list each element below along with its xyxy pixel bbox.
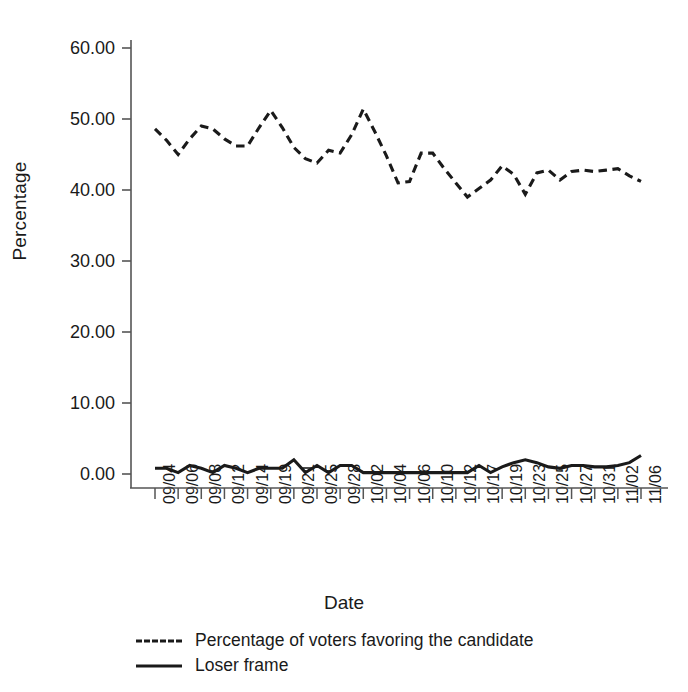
plot-area <box>0 0 688 692</box>
legend-item-0: Percentage of voters favoring the candid… <box>136 628 534 653</box>
legend-label-1: Loser frame <box>195 656 288 675</box>
legend-label-0: Percentage of voters favoring the candid… <box>195 631 534 650</box>
series-line-0 <box>155 109 641 197</box>
series-line-1 <box>155 456 641 473</box>
axis-lines <box>130 40 668 488</box>
x-axis-ticks <box>155 488 641 499</box>
legend-swatch-dashed-line-icon <box>136 634 182 648</box>
series-lines <box>155 109 641 473</box>
chart-figure: Percentage Date 0.0010.0020.0030.0040.00… <box>0 0 688 692</box>
chart-legend: Percentage of voters favoring the candid… <box>136 628 534 678</box>
legend-item-1: Loser frame <box>136 653 534 678</box>
y-axis-ticks <box>122 48 131 474</box>
legend-swatch-solid-line-icon <box>136 659 182 673</box>
